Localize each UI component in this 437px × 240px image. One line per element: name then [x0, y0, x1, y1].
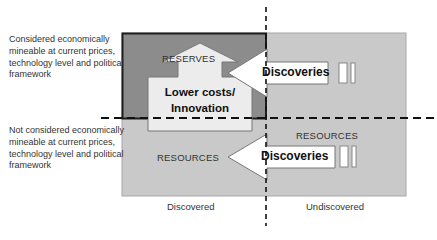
resources-undiscovered-label: RESOURCES — [296, 130, 358, 141]
discoveries-top-tail-bar-1 — [339, 63, 347, 83]
column-label-undiscovered: Undiscovered — [306, 201, 364, 212]
discoveries-top-text: Discoveries — [262, 65, 329, 79]
discoveries-top-tail-bar-2 — [351, 63, 355, 83]
discoveries-bottom-tail-bar-2 — [352, 146, 356, 167]
column-label-discovered: Discovered — [167, 201, 215, 212]
resources-discovered-label: RESOURCES — [157, 152, 219, 163]
reserves-label: RESERVES — [162, 53, 215, 64]
row-label-economic: Considered economically mineable at curr… — [9, 34, 129, 81]
lower-costs-line: Lower costs/ — [148, 84, 252, 100]
row-label-not-economic: Not considered economically mineable at … — [9, 125, 129, 172]
discoveries-bottom-tail-bar-1 — [340, 146, 348, 167]
discoveries-bottom-text: Discoveries — [261, 149, 328, 163]
innovation-line: Innovation — [148, 100, 252, 116]
lower-costs-innovation-text: Lower costs/ Innovation — [148, 84, 252, 116]
